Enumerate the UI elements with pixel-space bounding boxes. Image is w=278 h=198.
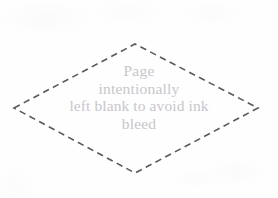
notice-line-3: left blank to avoid ink	[0, 97, 278, 115]
blank-page-notice: Page intentionally left blank to avoid i…	[0, 62, 278, 132]
scanned-page: Page intentionally left blank to avoid i…	[0, 0, 278, 198]
notice-line-2: intentionally	[0, 80, 278, 98]
notice-line-1: Page	[0, 62, 278, 80]
notice-line-4: bleed	[0, 115, 278, 133]
